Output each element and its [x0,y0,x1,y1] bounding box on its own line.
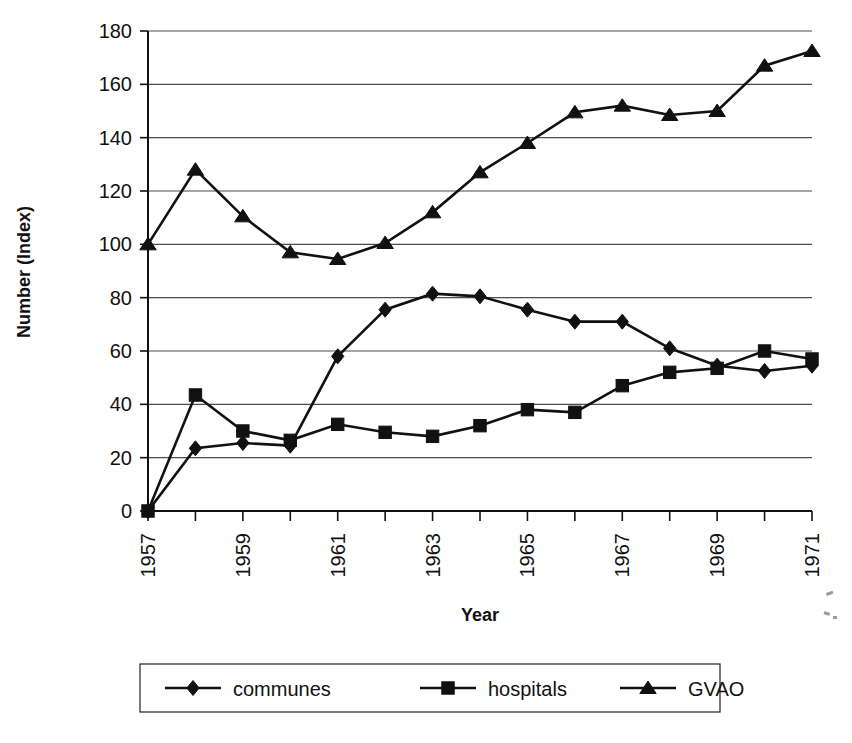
marker-diamond [474,289,486,304]
series-line-gvao [148,51,812,259]
x-tick-label: 1963 [422,533,444,578]
y-tick-label: 40 [110,393,132,415]
y-tick-label: 120 [99,180,132,202]
marker-triangle [804,44,820,57]
axis-lines [148,31,812,511]
marker-diamond [664,341,676,356]
marker-square [474,419,486,431]
marker-square [616,379,628,391]
x-axis-title: Year [461,605,499,625]
x-axis-ticks [148,511,812,521]
marker-diamond [237,436,249,451]
y-axis-ticks [140,31,148,511]
series-line-communes [148,294,812,511]
series-communes [142,286,818,518]
x-tick-label: 1957 [137,533,159,578]
y-tick-label: 20 [110,447,132,469]
y-tick-label: 100 [99,233,132,255]
marker-triangle [472,165,488,178]
marker-square [142,505,154,517]
marker-square [569,406,581,418]
marker-diamond [426,286,438,301]
marker-square [806,353,818,365]
y-tick-label: 60 [110,340,132,362]
data-series-layer [140,44,820,519]
y-tick-label: 140 [99,127,132,149]
series-hospitals [142,345,818,517]
chart-legend: communeshospitalsGVAO [140,664,744,712]
scan-artifacts [824,591,837,619]
series-gvao [140,44,820,265]
y-tick-label: 160 [99,73,132,95]
marker-square [189,389,201,401]
x-tick-label: 1959 [232,533,254,578]
y-axis-title: Number (Index) [14,206,34,338]
y-tick-label: 180 [99,20,132,42]
marker-square [711,362,723,374]
x-axis-tick-labels: 19571959196119631965196719691971 [137,533,823,578]
y-axis-tick-labels: 020406080100120140160180 [99,20,132,522]
marker-square [426,430,438,442]
marker-diamond [616,314,628,329]
marker-diamond [569,314,581,329]
y-tick-label: 80 [110,287,132,309]
y-tick-label: 0 [121,500,132,522]
marker-diamond [521,302,533,317]
marker-triangle [187,163,203,176]
marker-square [442,682,454,694]
x-tick-label: 1969 [706,533,728,578]
marker-square [332,418,344,430]
chart-canvas: 020406080100120140160180 195719591961196… [0,0,852,743]
legend-label: hospitals [488,678,567,700]
x-tick-label: 1965 [516,533,538,578]
marker-square [284,434,296,446]
x-tick-label: 1961 [327,533,349,578]
line-chart: 020406080100120140160180 195719591961196… [0,0,852,743]
marker-square [237,425,249,437]
marker-triangle [614,99,630,112]
marker-square [758,345,770,357]
gridlines [148,31,812,458]
legend-label: communes [233,678,331,700]
x-tick-label: 1967 [611,533,633,578]
x-tick-label: 1971 [801,533,823,578]
marker-diamond [758,364,770,379]
legend-label: GVAO [688,678,744,700]
marker-square [664,366,676,378]
marker-square [521,403,533,415]
marker-square [379,426,391,438]
